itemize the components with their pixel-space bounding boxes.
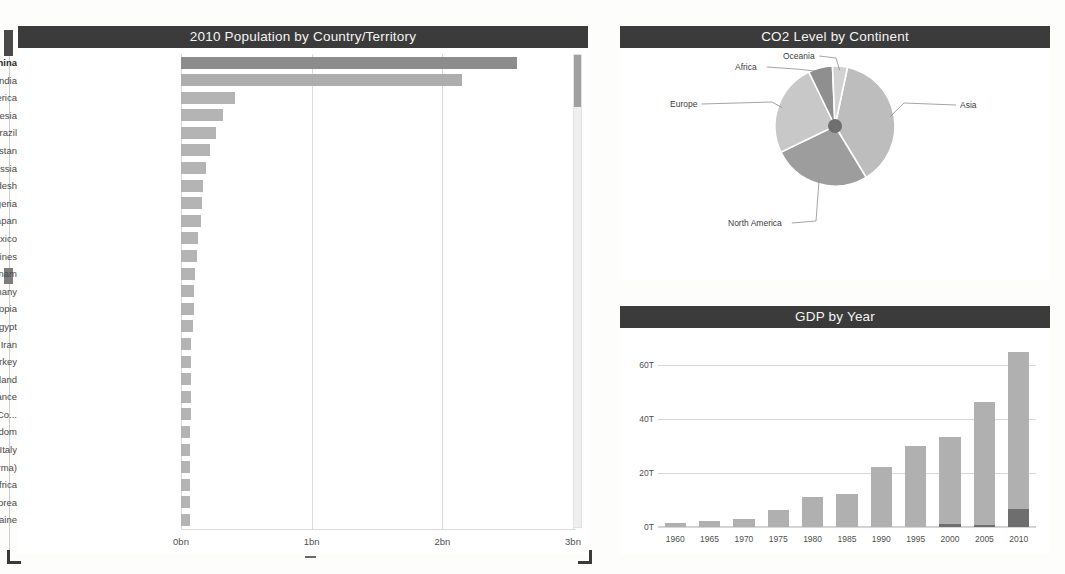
gdp-x-axis-tick-label: 1990 bbox=[872, 534, 891, 544]
bar-rect[interactable] bbox=[181, 144, 210, 156]
bar-rect[interactable] bbox=[181, 320, 193, 332]
bar-row[interactable]: Brazil bbox=[18, 126, 588, 144]
bar-rect[interactable] bbox=[181, 250, 197, 262]
bar-row[interactable]: Ethiopia bbox=[18, 302, 588, 320]
bar-row[interactable]: Vietnam bbox=[18, 267, 588, 285]
population-x-axis-labels: 0bn1bn2bn3bn bbox=[18, 536, 588, 550]
gdp-bar[interactable] bbox=[733, 519, 754, 527]
pie-label-leader-line bbox=[702, 102, 783, 108]
bar-rect[interactable] bbox=[181, 373, 191, 385]
bar-rect[interactable] bbox=[181, 338, 191, 350]
gdp-bar-lower-segment bbox=[939, 524, 960, 527]
gdp-gridline bbox=[658, 527, 1036, 528]
bar-category-label: Philippines bbox=[0, 250, 17, 263]
gdp-y-axis-tick-label: 40T bbox=[624, 414, 654, 424]
gdp-bar-column[interactable]: 1970 bbox=[727, 338, 761, 527]
bar-rect[interactable] bbox=[181, 74, 462, 86]
bar-row[interactable]: Philippines bbox=[18, 250, 588, 268]
bar-rect[interactable] bbox=[181, 162, 206, 174]
bar-row[interactable]: United States of America bbox=[18, 91, 588, 109]
bar-rect[interactable] bbox=[181, 461, 190, 473]
bar-row[interactable]: Democratic Republic of the Co... bbox=[18, 408, 588, 426]
gdp-x-axis-tick-label: 2000 bbox=[941, 534, 960, 544]
bar-rect[interactable] bbox=[181, 356, 191, 368]
gdp-bar-column[interactable]: 1965 bbox=[692, 338, 726, 527]
gdp-bar-column[interactable]: 1990 bbox=[864, 338, 898, 527]
bar-row[interactable]: Japan bbox=[18, 214, 588, 232]
bar-row[interactable]: Germany bbox=[18, 285, 588, 303]
scrollbar-thumb[interactable] bbox=[574, 55, 581, 107]
gdp-bar-column[interactable]: 1980 bbox=[795, 338, 829, 527]
bar-rect[interactable] bbox=[181, 232, 198, 244]
bar-rect[interactable] bbox=[181, 426, 190, 438]
bar-row[interactable]: Iran bbox=[18, 338, 588, 356]
bar-row[interactable]: Turkey bbox=[18, 355, 588, 373]
gdp-bar[interactable] bbox=[802, 497, 823, 527]
gdp-x-axis-tick-label: 1995 bbox=[906, 534, 925, 544]
bar-row[interactable]: Nigeria bbox=[18, 197, 588, 215]
bar-row[interactable]: Bangladesh bbox=[18, 179, 588, 197]
bar-rect[interactable] bbox=[181, 57, 517, 69]
bar-rect[interactable] bbox=[181, 197, 202, 209]
gdp-bar-column[interactable]: 2010 bbox=[1002, 338, 1036, 527]
bar-rect[interactable] bbox=[181, 92, 235, 104]
gdp-bar[interactable] bbox=[1008, 352, 1029, 528]
bar-row[interactable]: India bbox=[18, 74, 588, 92]
bar-category-label: Brazil bbox=[0, 126, 17, 139]
population-vertical-scrollbar[interactable] bbox=[573, 54, 582, 528]
pie-slice-label: North America bbox=[728, 218, 782, 228]
bar-rect[interactable] bbox=[181, 303, 194, 315]
bar-row[interactable]: Indonesia bbox=[18, 109, 588, 127]
bar-row[interactable]: France bbox=[18, 390, 588, 408]
gdp-bar-chart-panel: GDP by Year 0T20T40T60T 1960196519701975… bbox=[620, 306, 1050, 554]
population-plot-area: ChinaIndiaUnited States of AmericaIndone… bbox=[18, 48, 588, 554]
bar-row[interactable]: South Korea bbox=[18, 496, 588, 514]
bar-rect[interactable] bbox=[181, 109, 223, 121]
bar-rect[interactable] bbox=[181, 180, 203, 192]
gdp-bar[interactable] bbox=[939, 437, 960, 527]
pie-label-leader-line bbox=[890, 103, 956, 117]
gdp-bar-column[interactable]: 1985 bbox=[830, 338, 864, 527]
bar-row[interactable]: Italy bbox=[18, 443, 588, 461]
bar-row[interactable]: Myanmar (Burma) bbox=[18, 461, 588, 479]
gdp-bar-column[interactable]: 1975 bbox=[761, 338, 795, 527]
gdp-bar[interactable] bbox=[665, 523, 686, 527]
bar-rect[interactable] bbox=[181, 285, 194, 297]
gdp-bar[interactable] bbox=[871, 467, 892, 527]
bar-category-label: United Kingdom bbox=[0, 425, 17, 438]
gdp-bar[interactable] bbox=[768, 510, 789, 527]
gdp-bar-column[interactable]: 2000 bbox=[933, 338, 967, 527]
gdp-bar[interactable] bbox=[974, 402, 995, 527]
bar-row[interactable]: Egypt bbox=[18, 320, 588, 338]
bar-row[interactable]: China bbox=[18, 56, 588, 74]
gdp-bar[interactable] bbox=[905, 446, 926, 527]
bar-row[interactable]: Pakistan bbox=[18, 144, 588, 162]
bar-rect[interactable] bbox=[181, 408, 191, 420]
bar-row[interactable]: South Africa bbox=[18, 478, 588, 496]
bar-rect[interactable] bbox=[181, 444, 190, 456]
bar-rect[interactable] bbox=[181, 391, 191, 403]
population-bar-chart-panel: 2010 Population by Country/Territory Chi… bbox=[18, 26, 588, 554]
bar-row[interactable]: United Kingdom bbox=[18, 425, 588, 443]
gdp-bar-column[interactable]: 1995 bbox=[899, 338, 933, 527]
bar-rect[interactable] bbox=[181, 479, 190, 491]
gdp-bar[interactable] bbox=[699, 521, 720, 527]
bar-rect[interactable] bbox=[181, 127, 216, 139]
bar-row[interactable]: Mexico bbox=[18, 232, 588, 250]
bar-category-label: Pakistan bbox=[0, 144, 17, 157]
gdp-bar-column[interactable]: 2005 bbox=[967, 338, 1001, 527]
bar-rect[interactable] bbox=[181, 514, 190, 526]
bar-row[interactable]: Thailand bbox=[18, 373, 588, 391]
gdp-bar-column[interactable]: 1960 bbox=[658, 338, 692, 527]
bar-category-label: Mexico bbox=[0, 232, 17, 245]
bar-rect[interactable] bbox=[181, 496, 190, 508]
gdp-bar[interactable] bbox=[836, 494, 857, 527]
population-chart-body: ChinaIndiaUnited States of AmericaIndone… bbox=[18, 48, 588, 554]
bar-rect[interactable] bbox=[181, 215, 201, 227]
bar-category-label: France bbox=[0, 390, 17, 403]
gdp-y-axis-tick-label: 20T bbox=[624, 468, 654, 478]
bar-rect[interactable] bbox=[181, 268, 195, 280]
bar-row[interactable]: Russia bbox=[18, 162, 588, 180]
bar-row[interactable]: Ukraine bbox=[18, 513, 588, 531]
pie-slice-label: Africa bbox=[735, 62, 757, 72]
